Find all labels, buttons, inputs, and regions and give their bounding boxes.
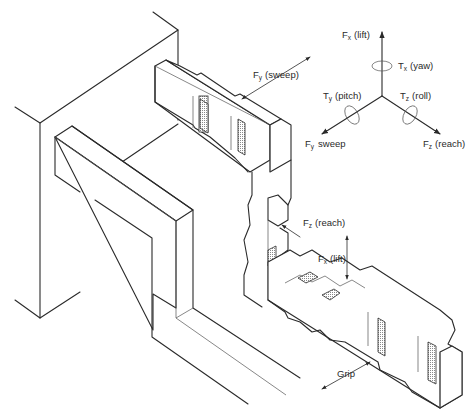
fz-reach-axis-label: Fz(reach): [423, 138, 465, 150]
fx-lift-label-annotation: Fx(lift): [318, 253, 346, 265]
fy-sweep-label: Fy(sweep): [253, 69, 299, 82]
fx-lift-label: Fx(lift): [342, 29, 370, 41]
fz-axis-arrow: [382, 96, 440, 134]
tz-roll-label: Tz(roll): [400, 90, 431, 102]
ty-pitch-label: Ty(pitch): [323, 90, 361, 103]
gripper-force-diagram: Fx(lift) Tx(yaw) Ty(pitch) Tz(roll) Fysw…: [0, 0, 473, 415]
grip-label: Grip: [337, 368, 355, 379]
lower-rail: [55, 126, 300, 404]
reference-axes: [322, 32, 440, 134]
fz-reach-label: Fz(reach): [303, 217, 345, 229]
fy-sweep-axis-label: Fysweep: [305, 138, 346, 151]
tx-yaw-label: Tx(yaw): [398, 60, 433, 72]
finger-lower-segment: [268, 250, 462, 408]
